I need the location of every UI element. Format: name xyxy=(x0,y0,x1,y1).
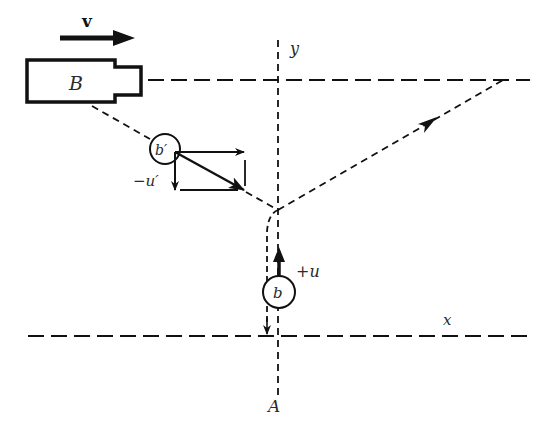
x-axis-label: x xyxy=(443,311,452,329)
y-axis-label: y xyxy=(289,39,300,58)
box-b xyxy=(27,60,141,102)
diagram-canvas: v B y x A +u b b′ −u′ xyxy=(0,0,536,425)
outgoing-arrow-head xyxy=(418,117,437,133)
velocity-label: v xyxy=(81,11,93,31)
ball-b-prime-label: b′ xyxy=(155,142,168,158)
velocity-arrow xyxy=(60,30,135,46)
incoming-path-2 xyxy=(246,192,278,210)
vector-components xyxy=(175,152,245,190)
incoming-path xyxy=(92,106,150,139)
ball-b-label: b xyxy=(273,284,283,302)
box-b-label: B xyxy=(68,72,83,94)
minus-u-prime-label: −u′ xyxy=(133,172,159,190)
origin-a-label: A xyxy=(266,396,280,416)
outgoing-path xyxy=(278,80,503,210)
plus-u-label: +u xyxy=(296,262,320,281)
